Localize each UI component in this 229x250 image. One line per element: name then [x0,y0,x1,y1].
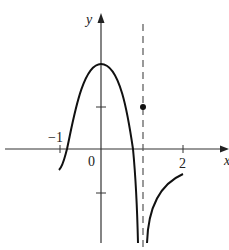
x-axis-label: x [223,153,229,168]
curve-left-branch [59,64,138,243]
x-axis-arrow-icon [220,146,229,153]
y-axis-label: y [84,12,93,27]
tick-label-2: 2 [179,156,186,171]
function-graph: y x −1 0 2 [0,0,229,250]
y-axis-arrow-icon [98,13,105,23]
isolated-point [140,104,146,110]
tick-label-0: 0 [88,154,95,169]
curve-right-branch [147,174,183,243]
tick-label-neg1: −1 [48,130,63,145]
